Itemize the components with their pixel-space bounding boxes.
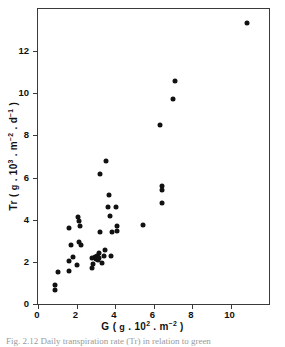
x-axis-tick-label: 2 xyxy=(61,309,91,320)
x-axis-tick xyxy=(154,304,155,309)
x-axis-tick-label: 6 xyxy=(138,309,168,320)
data-point xyxy=(113,205,118,210)
figure-caption: Fig. 2.12 Daily transpiration rate (Tr) … xyxy=(6,336,279,347)
data-point xyxy=(53,288,58,293)
data-point xyxy=(70,254,75,259)
x-axis-tick xyxy=(115,304,116,309)
y-axis-tick xyxy=(33,51,38,52)
data-point xyxy=(105,205,110,210)
data-point xyxy=(115,229,120,234)
data-point xyxy=(160,200,165,205)
data-point xyxy=(172,79,177,84)
y-axis-title: Tr ( g . 103 . m−2 . d−1 ) xyxy=(7,61,19,251)
y-axis-tick xyxy=(33,262,38,263)
y-axis-tick xyxy=(33,93,38,94)
data-point xyxy=(79,243,84,248)
x-axis-tick xyxy=(38,304,39,309)
y-axis-tick xyxy=(33,135,38,136)
data-point xyxy=(66,258,71,263)
data-point xyxy=(67,226,72,231)
y-axis-tick xyxy=(33,220,38,221)
x-axis-tick-label: 8 xyxy=(176,309,206,320)
data-point xyxy=(53,283,58,288)
data-point xyxy=(103,248,108,253)
plot-frame xyxy=(37,8,270,305)
x-axis-tick xyxy=(192,304,193,309)
x-axis-tick-label: 10 xyxy=(215,309,245,320)
y-axis-tick-label: 2 xyxy=(0,255,29,266)
data-point xyxy=(97,172,102,177)
x-axis-tick-label: 4 xyxy=(99,309,129,320)
x-axis-tick xyxy=(231,304,232,309)
data-point xyxy=(109,253,114,258)
data-point xyxy=(68,243,73,248)
data-point xyxy=(78,224,83,229)
data-point xyxy=(244,20,249,25)
data-point xyxy=(140,222,145,227)
x-axis-tick xyxy=(77,304,78,309)
data-point xyxy=(104,158,109,163)
x-axis-title: G ( g . 102 . m−2 ) xyxy=(0,320,285,332)
data-point xyxy=(102,253,107,258)
data-point xyxy=(108,213,113,218)
data-point xyxy=(56,270,61,275)
data-point xyxy=(114,223,119,228)
data-point xyxy=(76,218,81,223)
y-axis-tick-label: 12 xyxy=(0,45,29,56)
x-axis-tick-label: 0 xyxy=(22,309,52,320)
data-point xyxy=(99,260,104,265)
plot-area xyxy=(38,9,269,304)
y-axis-tick xyxy=(33,178,38,179)
data-point xyxy=(107,193,112,198)
data-point xyxy=(158,122,163,127)
data-point xyxy=(170,96,175,101)
y-axis-tick-label: 0 xyxy=(0,298,29,309)
data-point xyxy=(66,268,71,273)
data-point xyxy=(74,263,79,268)
data-point xyxy=(160,187,165,192)
data-point xyxy=(97,230,102,235)
